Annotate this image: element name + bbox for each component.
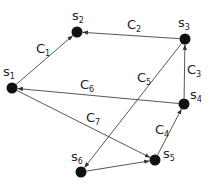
edge-label-c1: C1 [36, 41, 50, 58]
edge-label-c2: C2 [127, 17, 141, 34]
edge-c2-arrow [82, 32, 179, 38]
edge-label-c7: C7 [86, 110, 100, 127]
directed-graph: C1C2C3C4C5C6C7s1s2s3s4s5s6 [0, 0, 213, 188]
node-label-s2: s2 [72, 8, 84, 25]
node-label-s6: s6 [71, 149, 83, 166]
edge-s6-s5-arrow [86, 161, 149, 171]
edge-c6-arrow [17, 89, 178, 104]
edge-label-c6: C6 [80, 77, 94, 94]
edge-label-c3: C3 [187, 62, 201, 79]
node-s4 [179, 99, 190, 110]
node-label-s3: s3 [178, 15, 190, 32]
node-label-s1: s1 [3, 64, 15, 81]
node-s3 [180, 34, 191, 45]
edge-c7-arrow [17, 90, 150, 157]
node-label-s4: s4 [190, 87, 202, 104]
node-label-s5: s5 [163, 146, 175, 163]
node-s1 [7, 83, 18, 94]
edge-label-c4: C4 [155, 122, 169, 139]
labels-group: C1C2C3C4C5C6C7s1s2s3s4s5s6 [3, 8, 202, 166]
node-s2 [72, 27, 83, 38]
edge-label-c5: C5 [137, 70, 151, 87]
node-s5 [150, 155, 161, 166]
edge-c3-arrow [184, 44, 185, 98]
node-s6 [76, 167, 87, 178]
